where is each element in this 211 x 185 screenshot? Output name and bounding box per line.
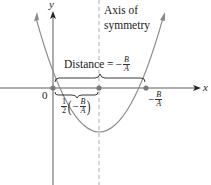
half-denominator: 2 [61,107,67,115]
distance-denominator: A [123,65,130,73]
origin-label: 0 [42,90,48,101]
axis-of-symmetry-label-line1: Axis of [104,5,138,17]
vertex-x-point [96,85,101,90]
root-sign: − [148,94,154,105]
curve-left-arrow-icon [34,12,39,21]
distance-label: Distance = − B A [64,56,130,73]
distance-sign: − [116,59,123,71]
root-fraction: B A [155,91,162,108]
distance-brace [55,74,145,82]
distance-fraction: B A [123,56,130,73]
half-inner-denominator: A [80,107,87,115]
curve-right-arrow-icon [160,12,165,21]
y-axis-label: y [49,0,54,10]
root-denominator: A [155,100,162,108]
half-sign: − [72,101,78,112]
half-fraction: 1 2 [61,98,67,115]
root-point [143,85,148,90]
half-inner-fraction: B A [80,98,87,115]
parabola-diagram: y x 0 Axis of symmetry Distance = − B A … [0,0,211,185]
distance-text: Distance = [64,59,114,71]
axis-of-symmetry-label-line2: symmetry [104,20,150,32]
x-axis-label: x [203,82,208,93]
half-paren-open: ( [68,99,72,115]
half-distance-label: 1 2 ( − B A ) [61,98,92,115]
root-label: − B A [148,91,162,108]
half-paren-close: ) [87,99,91,115]
origin-point [50,85,55,90]
